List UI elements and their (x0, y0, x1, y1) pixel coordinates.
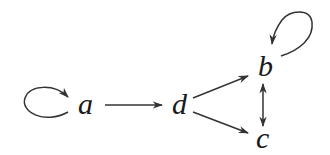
node-d: d (172, 87, 188, 120)
directed-graph-diagram: a d b c (0, 0, 330, 155)
edge-b-b-self-loop (272, 12, 312, 56)
edge-a-a-self-loop (24, 87, 68, 117)
edge-d-to-c (193, 112, 248, 133)
node-a: a (78, 87, 93, 120)
node-c: c (256, 121, 269, 154)
edge-d-to-b (193, 76, 248, 98)
node-b: b (258, 49, 273, 82)
